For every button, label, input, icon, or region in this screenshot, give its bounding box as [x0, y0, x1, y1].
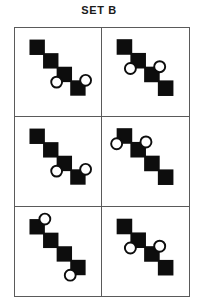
black-square: [43, 53, 58, 68]
puzzle-page: SET B: [0, 0, 198, 306]
open-circle: [39, 213, 50, 224]
matrix-cell-3[interactable]: [15, 117, 102, 206]
black-square: [43, 142, 58, 157]
open-circle: [80, 164, 91, 175]
black-square: [158, 170, 174, 186]
open-circle: [140, 137, 151, 148]
open-circle: [65, 269, 76, 280]
page-title: SET B: [0, 4, 198, 16]
black-square: [158, 80, 174, 96]
figure-3: [15, 117, 101, 205]
matrix-cell-6[interactable]: [102, 207, 189, 296]
open-circle: [125, 63, 136, 74]
open-circle: [154, 61, 165, 72]
black-square: [29, 40, 44, 55]
open-circle: [51, 77, 62, 88]
black-square: [29, 129, 44, 144]
black-square: [117, 39, 133, 55]
figure-2: [102, 28, 189, 116]
black-square: [158, 260, 174, 276]
open-circle: [111, 139, 122, 150]
black-square: [117, 218, 133, 234]
matrix-cell-4[interactable]: [102, 117, 189, 206]
open-circle: [51, 166, 62, 177]
figure-1: [15, 28, 101, 116]
black-square: [57, 246, 72, 261]
matrix-cell-1[interactable]: [15, 28, 102, 117]
figure-5: [15, 207, 101, 296]
black-square: [144, 156, 160, 172]
figure-4: [102, 117, 189, 205]
open-circle: [154, 240, 165, 251]
matrix-cell-5[interactable]: [15, 207, 102, 296]
open-circle: [125, 242, 136, 253]
figure-6: [102, 207, 189, 296]
figure-matrix-grid: [14, 27, 190, 297]
matrix-cell-2[interactable]: [102, 28, 189, 117]
open-circle: [80, 75, 91, 86]
black-square: [43, 232, 58, 247]
